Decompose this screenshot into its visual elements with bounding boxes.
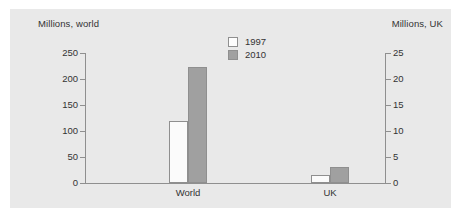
left-tick-100 [80, 131, 85, 132]
legend-item-1997: 1997 [228, 36, 266, 47]
legend-swatch-1997 [228, 37, 238, 47]
bar-uk-1997 [311, 175, 330, 183]
right-tick-label-20: 20 [393, 74, 404, 84]
right-tick-label-15: 15 [393, 100, 404, 110]
right-tick-0 [386, 183, 391, 184]
chart-screenshot: Millions, world Millions, UK 250 200 150… [0, 0, 461, 222]
legend-label-1997: 1997 [245, 36, 266, 47]
left-tick-label-250: 250 [44, 48, 78, 58]
plot-area: 250 200 150 100 50 0 25 20 15 10 5 0 Wor… [0, 0, 461, 222]
bar-uk-2010 [330, 167, 349, 183]
bar-world-2010 [188, 67, 207, 183]
category-label-uk: UK [290, 187, 370, 198]
right-tick-label-25: 25 [393, 48, 404, 58]
category-label-world: World [148, 187, 228, 198]
left-tick-label-0: 0 [44, 178, 78, 188]
left-tick-label-150: 150 [44, 100, 78, 110]
legend-item-2010: 2010 [228, 49, 266, 60]
left-tick-50 [80, 157, 85, 158]
right-tick-15 [386, 105, 391, 106]
right-axis-line [385, 53, 386, 184]
left-axis-line [85, 53, 86, 184]
legend-label-2010: 2010 [245, 49, 266, 60]
left-tick-0 [80, 183, 85, 184]
left-tick-label-100: 100 [44, 126, 78, 136]
right-tick-label-10: 10 [393, 126, 404, 136]
right-tick-10 [386, 131, 391, 132]
left-tick-200 [80, 79, 85, 80]
right-tick-5 [386, 157, 391, 158]
left-tick-250 [80, 53, 85, 54]
right-tick-25 [386, 53, 391, 54]
left-tick-label-200: 200 [44, 74, 78, 84]
chart-legend: 1997 2010 [228, 36, 266, 62]
left-tick-150 [80, 105, 85, 106]
left-tick-label-50: 50 [44, 152, 78, 162]
right-tick-20 [386, 79, 391, 80]
right-tick-label-5: 5 [393, 152, 398, 162]
x-axis-baseline [85, 183, 386, 184]
bar-world-1997 [169, 121, 188, 183]
right-tick-label-0: 0 [393, 178, 398, 188]
legend-swatch-2010 [228, 50, 238, 60]
